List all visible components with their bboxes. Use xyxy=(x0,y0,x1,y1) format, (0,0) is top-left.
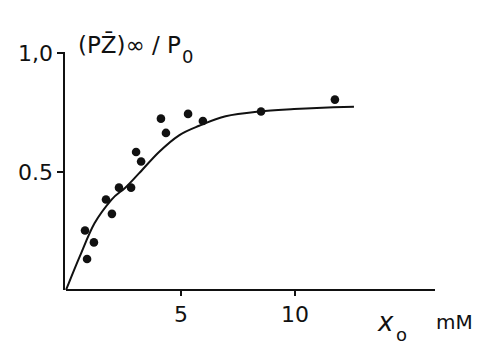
data-point xyxy=(90,238,99,247)
chart: 5100.51,0 (PZ̄)∞ / P0 x o mM xyxy=(0,0,491,359)
data-point xyxy=(81,226,90,235)
data-point xyxy=(162,129,171,138)
data-point xyxy=(115,183,124,192)
x-axis-label-sub: o xyxy=(396,324,407,345)
data-point xyxy=(83,255,92,264)
ticks: 5100.51,0 xyxy=(18,41,309,327)
data-point xyxy=(132,148,141,157)
x-axis-label-symbol: x xyxy=(377,307,394,337)
data-point xyxy=(102,195,111,204)
y-tick-label: 0.5 xyxy=(18,160,53,185)
data-point xyxy=(108,210,117,219)
x-tick-label: 5 xyxy=(174,302,188,327)
axes xyxy=(64,52,435,290)
x-tick-label: 10 xyxy=(281,302,309,327)
data-point xyxy=(184,110,193,119)
y-axis-label: (PZ̄)∞ / P0 xyxy=(78,31,193,67)
data-point xyxy=(137,157,146,166)
data-point xyxy=(127,183,136,192)
x-axis-label-unit: mM xyxy=(436,310,473,334)
y-tick-label: 1,0 xyxy=(18,41,53,66)
data-point xyxy=(257,107,266,116)
data-point xyxy=(199,117,208,126)
data-point xyxy=(157,114,166,123)
data-point xyxy=(331,95,340,104)
